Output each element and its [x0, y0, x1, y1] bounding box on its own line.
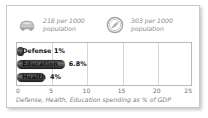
chart-plot-area: Defense1%Education6.8%Health4%	[16, 42, 192, 86]
chart-caption: Defense, Health, Education spending as %…	[16, 96, 196, 103]
stat-vehicles-label: 218 per 1000 population	[38, 17, 85, 32]
chart-x-tick: 20	[153, 87, 161, 94]
chart-x-tick: 10	[83, 87, 91, 94]
stat-telephones-label: 303 per 1000 population	[126, 17, 173, 32]
stat-telephones: 303 per 1000 population	[102, 9, 199, 40]
stats-card: 218 per 1000 population 303 per 1000 pop…	[6, 5, 200, 108]
bar-chart: Defense1%Education6.8%Health4%	[16, 42, 192, 86]
stat-vehicles: 218 per 1000 population	[7, 9, 102, 40]
chart-x-tick: 25	[184, 87, 192, 94]
chart-bar-label: Defense	[22, 46, 51, 57]
chart-x-tick: 15	[118, 87, 126, 94]
chart-bar-value: 1%	[54, 46, 65, 57]
chart-x-tick: 0	[16, 87, 20, 94]
chart-bar-row: Education6.8%	[17, 59, 193, 70]
chart-x-axis: 0510152025	[16, 87, 192, 96]
chart-bar-row: Health4%	[17, 72, 193, 83]
chart-bar-value: 4%	[50, 72, 61, 83]
chart-x-tick: 5	[49, 87, 53, 94]
stats-row: 218 per 1000 population 303 per 1000 pop…	[7, 9, 199, 40]
car-icon	[16, 14, 38, 36]
telephone-circle-icon	[104, 14, 126, 36]
chart-bar-row: Defense1%	[17, 46, 193, 57]
chart-bar-label: Education	[22, 59, 58, 70]
chart-bar-label: Health	[22, 72, 46, 83]
chart-bar-value: 6.8%	[69, 59, 87, 70]
